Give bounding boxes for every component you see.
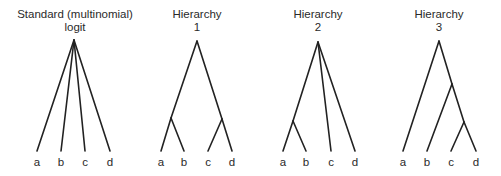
panel-standard-logit: Standard (multinomial) logit a b c d [17, 8, 133, 168]
nested-logit-tree-diagram: Standard (multinomial) logit a b c d Hie… [0, 0, 501, 176]
panel-hierarchy-1: Hierarchy 1 a b c d [158, 8, 235, 168]
panel-title-line1: Hierarchy [293, 8, 342, 20]
panel-title-line1: Standard (multinomial) [17, 8, 133, 20]
leaf-label-b: b [58, 156, 64, 168]
leaf-label-d: d [352, 156, 358, 168]
leaf-label-b: b [181, 156, 187, 168]
leaf-label-c: c [448, 156, 454, 168]
panel-hierarchy-3: Hierarchy 3 a b c d [400, 8, 479, 168]
tree-edges [161, 41, 232, 151]
panel-hierarchy-2: Hierarchy 2 a b c d [280, 8, 358, 168]
tree-edge-root-ab [293, 42, 318, 121]
tree-edge-ab-a [161, 118, 171, 151]
leaf-label-d: d [473, 156, 479, 168]
panel-title-line1: Hierarchy [414, 8, 463, 20]
leaf-label-a: a [400, 156, 407, 168]
leaf-label-c: c [205, 156, 211, 168]
tree-edge-root-b [61, 40, 74, 151]
leaf-label-c: c [328, 156, 334, 168]
tree-edge-root-cd [197, 41, 222, 119]
leaf-label-a: a [280, 156, 287, 168]
tree-edge-root-d [318, 42, 355, 151]
tree-edge-ab-b [293, 121, 306, 151]
tree-edge-cd-c [208, 119, 222, 151]
tree-edge-bcd-b [427, 84, 452, 151]
panel-title-line2: 1 [194, 21, 200, 33]
tree-edges [403, 41, 476, 151]
tree-edge-root-c [318, 42, 331, 151]
tree-edge-cd-d [222, 119, 232, 151]
leaf-label-d: d [229, 156, 235, 168]
panel-title-line1: Hierarchy [172, 8, 221, 20]
panel-title-line2: 2 [315, 21, 321, 33]
tree-edges [283, 42, 355, 151]
leaf-label-a: a [158, 156, 165, 168]
tree-edge-cd-d [464, 122, 476, 151]
panel-title-line2: logit [64, 21, 86, 33]
leaf-label-b: b [303, 156, 309, 168]
tree-edge-root-bcd [439, 41, 452, 84]
leaf-label-c: c [82, 156, 88, 168]
leaf-label-b: b [424, 156, 430, 168]
tree-edge-ab-a [283, 121, 293, 151]
tree-edge-cd-c [451, 122, 464, 151]
tree-edge-root-ab [171, 41, 197, 118]
tree-edge-ab-b [171, 118, 184, 151]
leaf-label-d: d [107, 156, 113, 168]
tree-edge-bcd-cd [452, 84, 464, 122]
tree-edge-root-a [37, 40, 74, 151]
leaf-label-a: a [34, 156, 41, 168]
panel-title-line2: 3 [436, 21, 442, 33]
tree-edges [37, 40, 110, 151]
